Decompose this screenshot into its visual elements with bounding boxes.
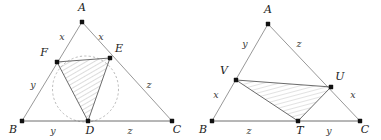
right-vertex-label-V: V (220, 64, 229, 77)
right-vertex-dot-V (234, 78, 238, 82)
right-segment-label-0: y (241, 38, 248, 49)
left-vertex-label-D: D (85, 124, 95, 137)
left-vertex-label-A: A (77, 1, 86, 14)
left-segment-label-5: z (126, 125, 133, 136)
left-segment-label-0: x (59, 31, 65, 42)
right-segment-label-2: x (213, 89, 219, 100)
left-segment-label-2: y (29, 79, 36, 90)
left-vertex-label-C: C (173, 123, 182, 136)
right-segment-label-3: x (350, 89, 356, 100)
right-vertex-label-T: T (296, 124, 305, 137)
left-vertex-label-B: B (8, 123, 17, 136)
left-vertex-label-E: E (114, 42, 123, 55)
right-vertex-dot-B (210, 119, 214, 123)
right-vertex-label-B: B (198, 123, 207, 136)
geometry-canvas: ABCDEF xxyzyz ABCTUV yzxxzy (0, 0, 381, 140)
right-segment-label-1: z (295, 38, 302, 49)
right-segment-label-4: z (245, 125, 252, 136)
right-segment-label-5: y (325, 125, 332, 136)
right-vertex-labels: ABCTUV (198, 3, 370, 137)
left-vertex-dot-E (108, 56, 112, 60)
geometry-figure: ABCDEF xxyzyz ABCTUV yzxxzy (0, 0, 381, 140)
left-vertex-dot-F (55, 60, 59, 64)
left-vertex-dot-D (86, 119, 90, 123)
left-vertex-label-F: F (39, 46, 48, 59)
right-diagram: ABCTUV yzxxzy (198, 3, 370, 137)
right-vertex-dot-U (329, 85, 333, 89)
right-vertex-label-U: U (335, 70, 345, 83)
left-diagram: ABCDEF xxyzyz (8, 1, 182, 137)
right-vertex-label-C: C (361, 123, 370, 136)
right-vertex-dot-T (296, 119, 300, 123)
left-vertex-dot-A (80, 20, 84, 24)
left-segment-label-3: z (145, 79, 152, 90)
right-vertex-dot-A (266, 22, 270, 26)
right-vertex-label-A: A (263, 3, 272, 16)
left-segment-label-4: y (49, 125, 56, 136)
left-segment-label-1: x (98, 31, 104, 42)
left-vertex-dot-B (20, 119, 24, 123)
